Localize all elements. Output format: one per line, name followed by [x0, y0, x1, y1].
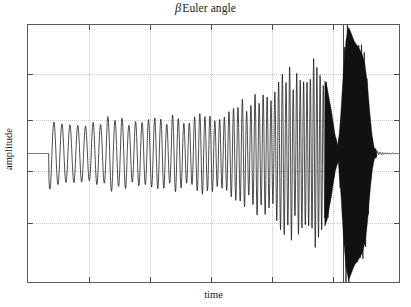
x-axis-tick-bottom	[343, 277, 344, 282]
vertical-gridline	[343, 25, 344, 282]
y-axis-tick-right	[394, 223, 399, 224]
waveform-svg	[28, 25, 399, 282]
chart-title-text: Euler angle	[182, 2, 236, 14]
waveform-burst-envelope	[325, 27, 377, 279]
x-axis-tick-top	[89, 25, 90, 30]
x-axis-tick-bottom	[150, 277, 151, 282]
horizontal-gridline	[28, 74, 399, 75]
x-axis-tick-bottom	[272, 277, 273, 282]
x-axis-tick-bottom	[211, 277, 212, 282]
vertical-gridline	[272, 25, 273, 282]
x-axis-tick-top	[150, 25, 151, 30]
y-axis-label-container: amplitude	[0, 0, 20, 307]
x-axis-tick-top	[343, 25, 344, 30]
x-axis-tick-top	[272, 25, 273, 30]
y-axis-tick-left	[28, 120, 33, 121]
y-axis-label: amplitude	[3, 99, 15, 199]
x-axis-tick-bottom	[333, 277, 334, 282]
tick-layer	[28, 25, 399, 282]
waveform-layer	[28, 25, 399, 282]
y-axis-tick-right	[394, 120, 399, 121]
horizontal-gridline	[28, 171, 399, 172]
y-axis-tick-left	[28, 74, 33, 75]
vertical-gridline	[333, 25, 334, 282]
y-axis-tick-right	[394, 74, 399, 75]
y-axis-tick-right	[394, 171, 399, 172]
vertical-gridline	[211, 25, 212, 282]
grid-layer	[28, 25, 399, 282]
horizontal-gridline	[28, 223, 399, 224]
chart-figure: βEuler angle amplitude time	[0, 0, 411, 307]
x-axis-tick-bottom	[89, 277, 90, 282]
plot-area	[27, 24, 400, 283]
x-axis-label: time	[27, 288, 400, 301]
y-axis-tick-left	[28, 171, 33, 172]
waveform-trace	[28, 25, 399, 282]
horizontal-gridline	[28, 120, 399, 121]
chart-title: βEuler angle	[0, 1, 411, 16]
y-axis-tick-left	[28, 223, 33, 224]
vertical-gridline	[89, 25, 90, 282]
vertical-gridline	[150, 25, 151, 282]
x-axis-tick-top	[211, 25, 212, 30]
x-axis-tick-top	[333, 25, 334, 30]
